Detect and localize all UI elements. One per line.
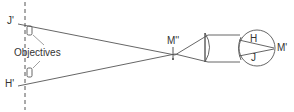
label-h: H [250,34,257,44]
label-m-double-prime: M'' [167,36,179,46]
eyepiece-lens-icon [205,33,210,62]
label-j: J [251,53,256,63]
label-j-prime: J' [7,16,14,26]
objective-upper-icon [27,26,32,35]
label-m-prime: M' [277,43,287,53]
ray-lower [18,54,175,86]
label-objectives: Objectives [14,48,61,58]
objective-lower-icon [27,68,32,77]
label-h-prime: H' [5,79,14,89]
